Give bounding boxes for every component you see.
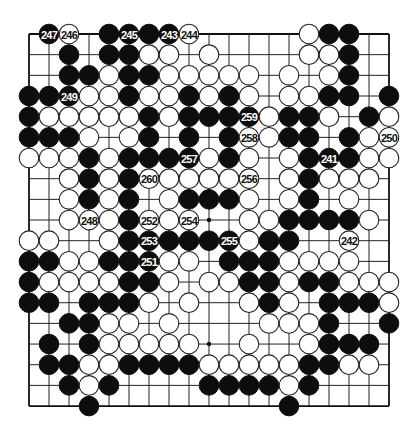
move-number-label: 258 [241,132,258,144]
black-stone [39,293,59,313]
white-stone-icon [239,66,259,86]
white-stone [59,169,79,189]
black-stone [219,128,239,148]
white-stone [199,169,219,189]
white-stone [279,252,299,272]
white-stone-icon [199,148,219,168]
white-stone [59,190,79,210]
black-stone [139,148,159,168]
black-stone-icon [99,252,119,272]
white-stone [239,86,259,106]
move-number-label: 249 [61,91,78,103]
black-stone-icon [279,231,299,251]
white-stone-icon [239,231,259,251]
white-stone-icon [179,169,199,189]
white-stone-icon [159,107,179,127]
white-stone [319,169,339,189]
white-stone-icon [259,128,279,148]
black-stone-icon [39,355,59,375]
black-stone [379,314,399,334]
move-number-label: 257 [181,153,198,165]
black-stone-icon [279,107,299,127]
black-stone-icon [139,107,159,127]
black-stone-icon [339,86,359,106]
white-stone [219,272,239,292]
black-stone-icon [259,376,279,396]
white-stone-icon [99,334,119,354]
black-stone [179,190,199,210]
black-stone-icon [119,169,139,189]
move-number-label: 241 [321,153,338,165]
white-stone-icon [379,272,399,292]
black-stone-icon [59,355,79,375]
white-stone [299,252,319,272]
black-stone [319,86,339,106]
white-stone [59,252,79,272]
white-stone [279,86,299,106]
white-stone: 254 [179,210,199,230]
black-stone [359,293,379,313]
black-stone [219,252,239,272]
white-stone-icon [199,66,219,86]
move-number-label: 243 [161,29,178,41]
white-stone [319,45,339,65]
black-stone [59,376,79,396]
white-stone [299,24,319,44]
move-number-label: 250 [381,132,398,144]
white-stone-icon [179,334,199,354]
white-stone-icon [79,128,99,148]
white-stone [179,169,199,189]
white-stone [239,66,259,86]
white-stone [239,334,259,354]
black-stone-icon [119,272,139,292]
move-number-label: 245 [121,29,138,41]
black-stone-icon [59,314,79,334]
black-stone [179,86,199,106]
white-stone [339,190,359,210]
white-stone [99,210,119,230]
black-stone-icon [119,252,139,272]
black-stone [59,355,79,375]
black-stone [339,45,359,65]
black-stone [39,128,59,148]
black-stone [319,210,339,230]
white-stone-icon [79,86,99,106]
move-number-label: 252 [141,215,158,227]
black-stone-icon [339,66,359,86]
move-number-label: 246 [61,29,78,41]
black-stone [79,169,99,189]
white-stone-icon [119,128,139,148]
black-stone-icon [139,24,159,44]
white-stone [59,272,79,292]
black-stone [299,148,319,168]
black-stone-icon [319,314,339,334]
black-stone [259,252,279,272]
white-stone-icon [159,190,179,210]
white-stone [179,334,199,354]
black-stone-icon [79,190,99,210]
white-stone [179,252,199,272]
white-stone [359,210,379,230]
black-stone [199,190,219,210]
white-stone-icon [179,293,199,313]
black-stone-icon [319,86,339,106]
black-stone-icon [199,107,219,127]
white-stone-icon [139,293,159,313]
white-stone [19,231,39,251]
black-stone-icon [39,86,59,106]
black-stone-icon [199,231,219,251]
black-stone [219,107,239,127]
white-stone-icon [99,107,119,127]
black-stone-icon [119,148,139,168]
white-stone [239,148,259,168]
white-stone [59,107,79,127]
white-stone [319,252,339,272]
black-stone [199,107,219,127]
move-number-label: 259 [241,111,258,123]
white-stone [279,376,299,396]
white-stone-icon [59,252,79,272]
white-stone [239,190,259,210]
move-number-label: 254 [181,215,199,227]
white-stone [219,66,239,86]
black-stone-icon [159,355,179,375]
